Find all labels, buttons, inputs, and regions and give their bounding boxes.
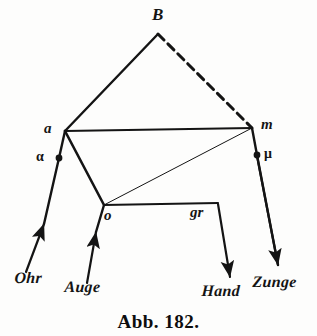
- label-a: a: [44, 121, 52, 136]
- edge-a-B: [65, 34, 158, 131]
- label-alpha: α: [36, 150, 44, 164]
- label-hand: Hand: [201, 283, 240, 299]
- edge-o-m: [104, 128, 252, 205]
- arrow-auge: [87, 232, 96, 283]
- label-m: m: [261, 117, 273, 132]
- edge-B-m: [158, 34, 252, 128]
- label-gr: gr: [190, 205, 203, 220]
- label-o: o: [104, 208, 112, 223]
- dot-alpha: [56, 155, 63, 162]
- seg-alpha-to-a: [59, 131, 65, 158]
- label-ohr: Ohr: [14, 270, 42, 286]
- dots-group: [56, 152, 261, 162]
- figure-abb-182: Bamαμogr OhrAugeHandZunge Abb. 182.: [0, 0, 317, 336]
- arrow-zunge: [257, 156, 278, 265]
- label-zunge: Zunge: [252, 274, 297, 290]
- label-mu: μ: [264, 147, 272, 161]
- arrow-hand: [218, 204, 230, 277]
- seg-mu-to-m: [252, 128, 257, 155]
- seg-auge-to-o: [96, 205, 104, 232]
- edge-a-o: [65, 131, 104, 205]
- connectors-group: [44, 128, 278, 265]
- edges-group: [65, 34, 252, 205]
- arrow-ohr: [26, 224, 44, 272]
- seg-alpha-down: [44, 158, 59, 224]
- label-auge: Auge: [64, 279, 101, 295]
- edge-a-m: [65, 128, 252, 131]
- figure-caption: Abb. 182.: [0, 311, 317, 333]
- dot-mu: [254, 152, 261, 159]
- label-B: B: [152, 6, 163, 23]
- arrows-group: [26, 156, 278, 283]
